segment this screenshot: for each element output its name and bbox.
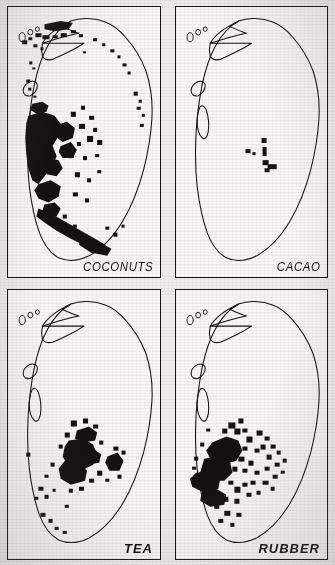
panel-label-rubber: RUBBER: [258, 542, 320, 555]
panel-label-coconuts: COCONUTS: [83, 261, 153, 274]
map-frame-cacao: CACAO: [175, 6, 328, 278]
map-frame-coconuts: COCONUTS: [7, 6, 161, 278]
map-svg-rubber: [176, 290, 327, 559]
panel-rubber[interactable]: RUBBER: [168, 283, 335, 565]
crop-dots-rubber: [190, 418, 287, 526]
map-svg-tea: [8, 290, 160, 559]
map-svg-cacao: [176, 7, 327, 277]
map-frame-rubber: RUBBER: [175, 289, 328, 560]
panel-grid: COCONUTS: [0, 0, 335, 565]
islets-tea: [19, 310, 39, 325]
crop-dots-cacao: [245, 138, 276, 172]
panel-label-tea: TEA: [124, 542, 153, 555]
panel-coconuts[interactable]: COCONUTS: [0, 0, 168, 283]
crop-dots-tea: [26, 418, 125, 533]
crop-dots-coconuts: [22, 21, 145, 256]
panel-tea[interactable]: TEA: [0, 283, 168, 565]
map-frame-tea: TEA: [7, 289, 161, 560]
panel-label-cacao: CACAO: [276, 261, 320, 274]
islets-cacao: [187, 27, 207, 42]
crop-distribution-figure: COCONUTS: [0, 0, 335, 565]
map-svg-coconuts: [8, 7, 160, 277]
islets-rubber: [187, 310, 207, 325]
coastline-cacao: [191, 19, 319, 261]
panel-cacao[interactable]: CACAO: [168, 0, 335, 283]
